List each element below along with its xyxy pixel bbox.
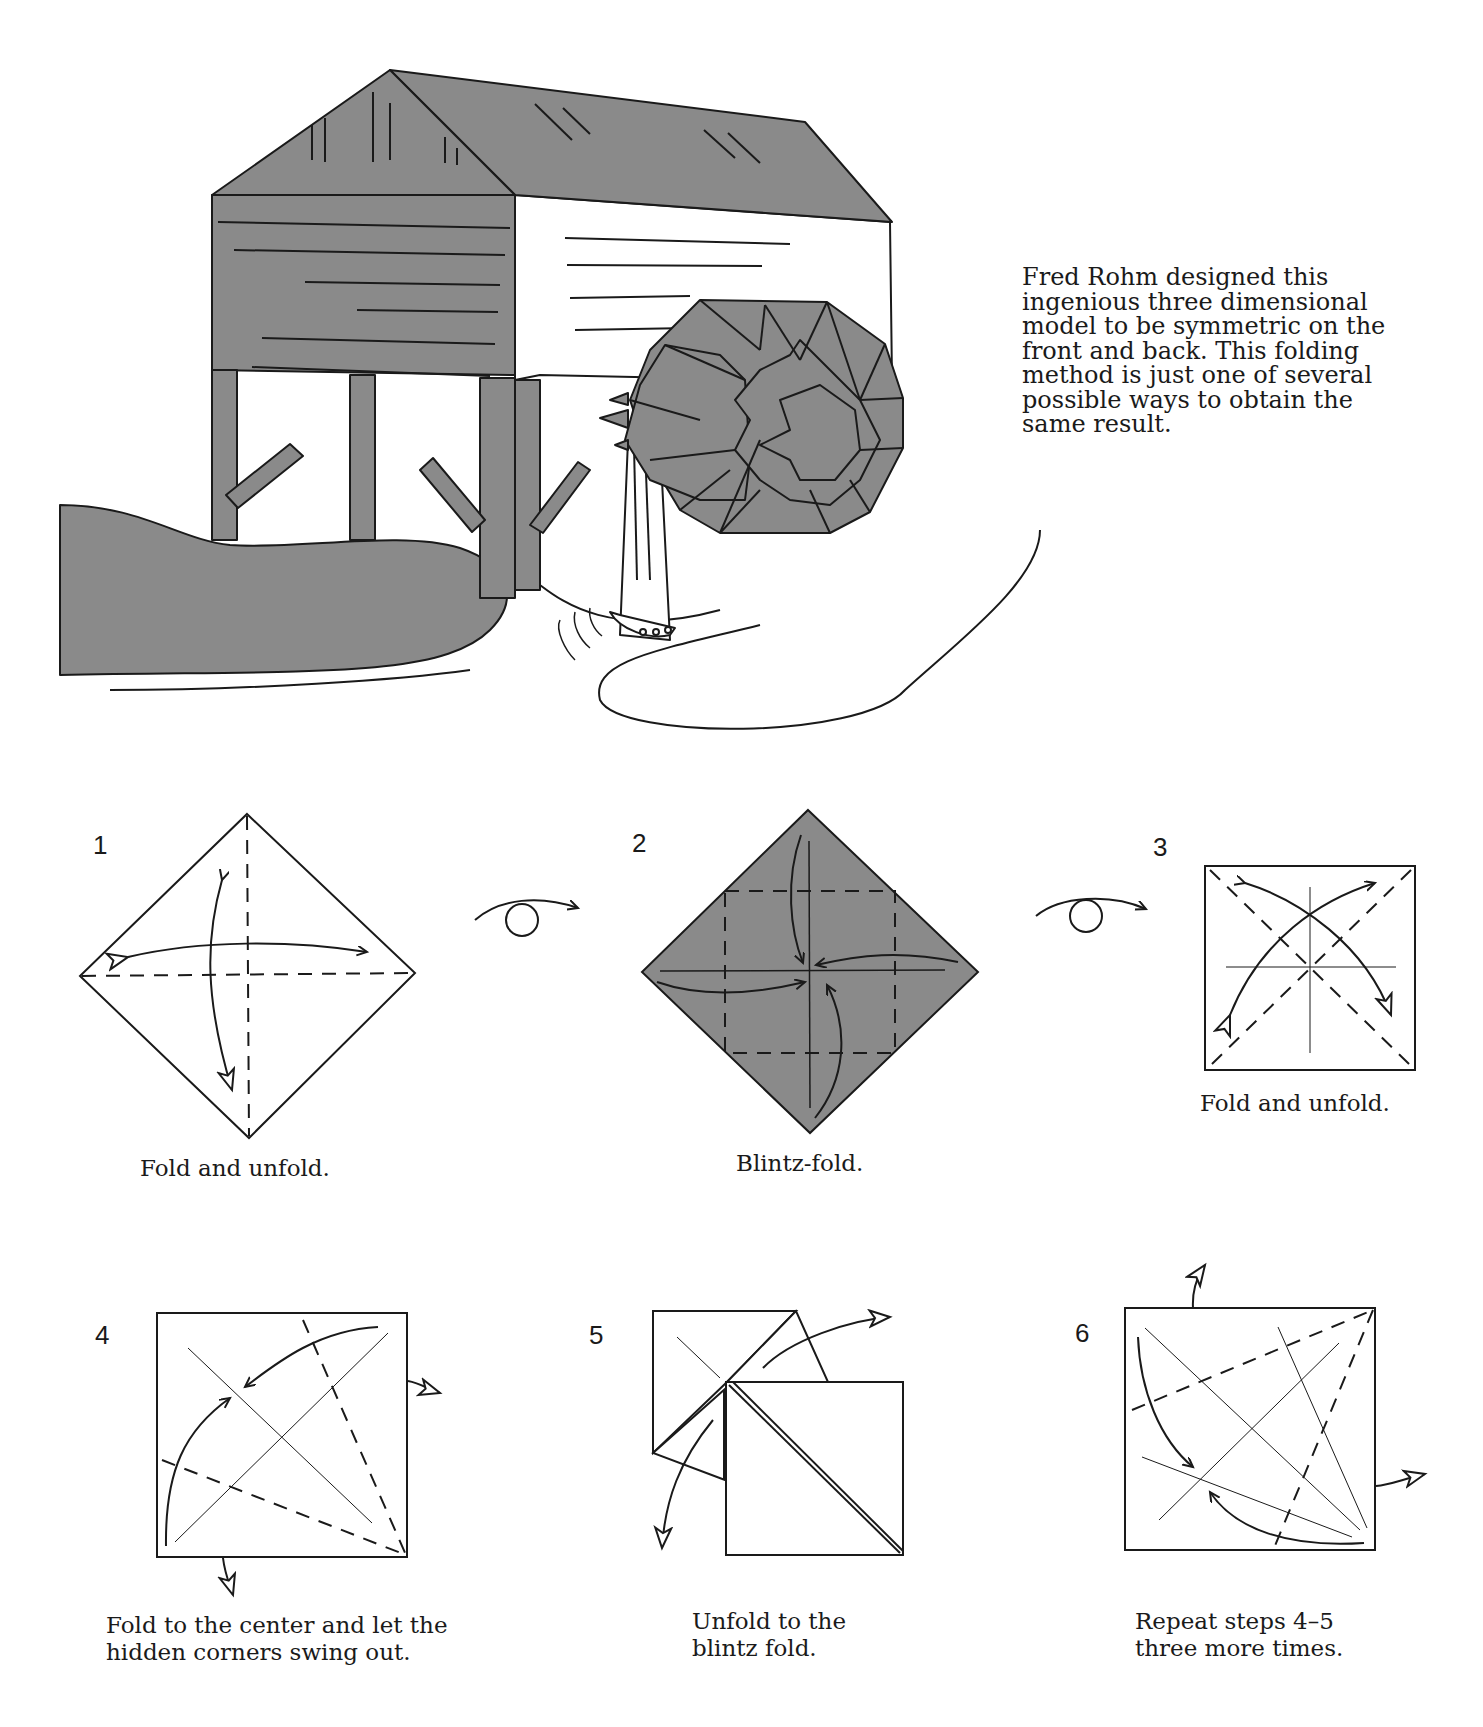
caption-line: Fold and unfold. [1200, 1090, 1390, 1117]
step-number-4: 4 [95, 1320, 109, 1351]
step-6-caption: Repeat steps 4–5 three more times. [1135, 1608, 1343, 1662]
step-1-diagram [80, 814, 415, 1138]
step-number-6: 6 [1075, 1318, 1089, 1349]
step-2-caption: Blintz-fold. [736, 1150, 863, 1177]
step-2-diagram [642, 810, 978, 1133]
caption-line: Blintz-fold. [736, 1150, 863, 1177]
step-6-diagram [1125, 1265, 1425, 1550]
page-artwork [0, 0, 1483, 1727]
turn-over-icon [475, 900, 578, 936]
step-3-diagram [1205, 866, 1415, 1070]
step-3-caption: Fold and unfold. [1200, 1090, 1390, 1117]
step-4-diagram [157, 1313, 440, 1595]
intro-line: method is just one of several [1022, 363, 1442, 388]
step-5-diagram [653, 1311, 903, 1555]
intro-line: possible ways to obtain the [1022, 388, 1442, 413]
intro-line: model to be symmetric on the [1022, 314, 1442, 339]
caption-line: hidden corners swing out. [106, 1639, 448, 1666]
step-number-3: 3 [1153, 832, 1167, 863]
intro-line: front and back. This folding [1022, 339, 1442, 364]
step-4-caption: Fold to the center and let the hidden co… [106, 1612, 448, 1666]
intro-line: same result. [1022, 412, 1442, 437]
step-number-1: 1 [93, 830, 107, 861]
caption-line: Fold to the center and let the [106, 1612, 448, 1639]
caption-line: Unfold to the [692, 1608, 846, 1635]
step-number-2: 2 [632, 828, 646, 859]
intro-line: ingenious three dimensional [1022, 290, 1442, 315]
watermill-illustration [60, 70, 1040, 729]
intro-paragraph: Fred Rohm designed this ingenious three … [1022, 265, 1442, 437]
caption-line: Fold and unfold. [140, 1155, 330, 1182]
step-1-caption: Fold and unfold. [140, 1155, 330, 1182]
caption-line: blintz fold. [692, 1635, 846, 1662]
intro-line: Fred Rohm designed this [1022, 265, 1442, 290]
caption-line: three more times. [1135, 1635, 1343, 1662]
turn-over-icon [1036, 899, 1146, 932]
caption-line: Repeat steps 4–5 [1135, 1608, 1343, 1635]
ground-mound [60, 505, 507, 675]
step-number-5: 5 [589, 1320, 603, 1351]
step-5-caption: Unfold to the blintz fold. [692, 1608, 846, 1662]
